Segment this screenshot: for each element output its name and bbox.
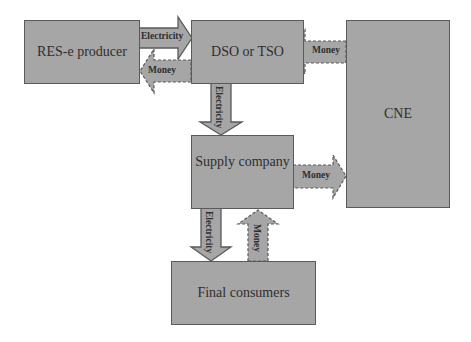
node-label: DSO or TSO — [211, 44, 284, 60]
node-res-e-producer: RES-e producer — [24, 20, 140, 84]
edge-label-money: Money — [148, 65, 176, 75]
edge-label-money: Money — [302, 170, 330, 180]
node-label: Final consumers — [197, 285, 289, 301]
node-cne: CNE — [346, 20, 450, 208]
edge-label-money: Money — [312, 45, 340, 55]
node-label: RES-e producer — [37, 44, 127, 60]
edge-label-electricity: Electricity — [214, 86, 224, 128]
edge-label-electricity: Electricity — [204, 211, 214, 253]
node-dso-tso: DSO or TSO — [191, 20, 304, 84]
node-label: CNE — [384, 106, 412, 122]
node-final-consumers: Final consumers — [171, 261, 316, 325]
node-label: Supply company — [195, 154, 290, 170]
node-supply-company: Supply company — [191, 135, 294, 209]
edge-label-electricity: Electricity — [141, 31, 183, 41]
edge-label-money: Money — [252, 224, 262, 252]
